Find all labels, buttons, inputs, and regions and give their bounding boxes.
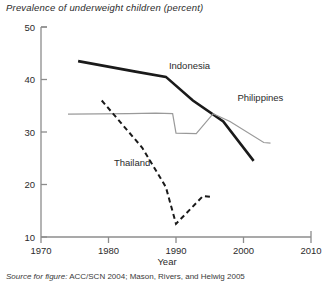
series-label-philippines: Philippines bbox=[237, 92, 283, 103]
y-tick-label: 30 bbox=[24, 127, 35, 138]
chart-plot-area: 1020304050 19701980199020002010 Indonesi… bbox=[0, 0, 334, 285]
series-line-philippines bbox=[68, 113, 271, 143]
x-axis-title: Year bbox=[0, 256, 334, 267]
source-note: Source for figure: ACC/SCN 2004; Mason, … bbox=[6, 272, 245, 281]
source-text: ACC/SCN 2004; Mason, Rivers, and Helwig … bbox=[67, 272, 244, 281]
x-tick-label: 2010 bbox=[300, 245, 321, 256]
y-tick-label: 40 bbox=[24, 74, 35, 85]
y-tick-label: 10 bbox=[24, 232, 35, 243]
series-label-group: IndonesiaPhilippinesThailand bbox=[114, 60, 284, 168]
series-line-indonesia bbox=[78, 61, 254, 161]
series-label-indonesia: Indonesia bbox=[169, 60, 211, 71]
y-tick-label: 50 bbox=[24, 22, 35, 33]
y-tick-group: 1020304050 bbox=[24, 22, 47, 243]
x-tick-label: 1990 bbox=[165, 245, 186, 256]
data-series-group bbox=[68, 61, 271, 224]
x-tick-label: 1970 bbox=[30, 245, 51, 256]
x-tick-label: 1980 bbox=[98, 245, 119, 256]
chart-figure: Prevalence of underweight children (perc… bbox=[0, 0, 334, 285]
x-tick-group: 19701980199020002010 bbox=[30, 237, 321, 256]
source-label: Source for figure: bbox=[6, 272, 67, 281]
series-label-thailand: Thailand bbox=[114, 157, 150, 168]
x-tick-label: 2000 bbox=[233, 245, 254, 256]
y-tick-label: 20 bbox=[24, 179, 35, 190]
